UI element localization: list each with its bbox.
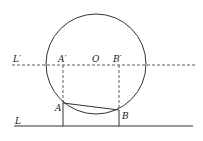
chord-ab [63,103,119,110]
label-a-prime: A′ [57,54,67,64]
label-l: L [14,116,21,126]
label-o: O [92,54,100,64]
circle [46,14,146,114]
label-l-prime: L′ [12,54,21,64]
geometry-diagram: L′ A′ O B′ A B L [0,0,203,141]
label-a: A [54,103,62,113]
label-b: B [121,111,129,121]
label-b-prime: B′ [112,54,122,64]
